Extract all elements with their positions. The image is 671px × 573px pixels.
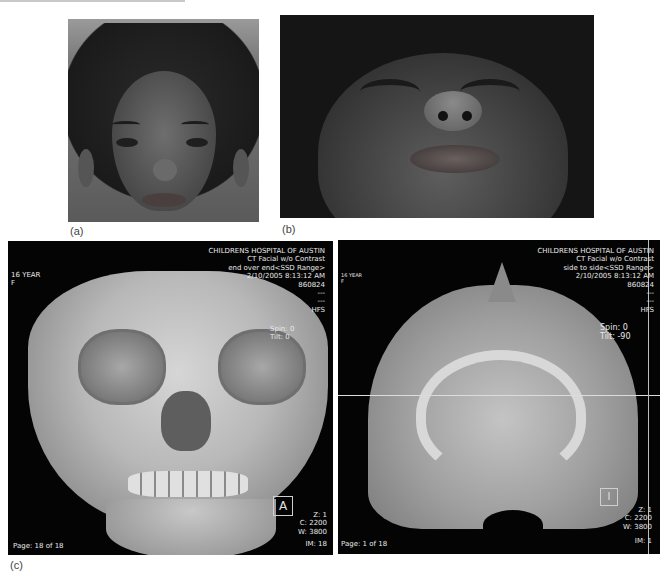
- patient-info: 16 YEAR F: [11, 271, 40, 288]
- lips: [410, 145, 500, 173]
- spin-tilt: Spin: 0 Tilt: -90: [600, 323, 631, 341]
- zoom-level: Z: 1: [298, 511, 327, 519]
- tilt-label: Tilt:: [600, 332, 615, 341]
- lips: [142, 193, 186, 207]
- mandible: [106, 499, 276, 555]
- foramen-notch: [483, 510, 543, 540]
- image-number: IM: 18: [305, 540, 327, 548]
- nose: [153, 159, 177, 181]
- spin-label: Spin:: [600, 323, 620, 332]
- caption-a: (a): [70, 225, 83, 237]
- blank-line-1: ---: [537, 289, 654, 297]
- window-settings: Z: 1 C: 2200 W: 3800: [298, 511, 327, 536]
- caption-b: (b): [282, 223, 295, 235]
- blank-line-2: ---: [537, 297, 654, 305]
- institution: CHILDRENS HOSPITAL OF AUSTIN: [208, 247, 325, 255]
- photo-frontal-face: [68, 19, 259, 222]
- patient-position: HFS: [537, 306, 654, 314]
- orientation-marker: I: [600, 488, 618, 506]
- ct-header: CHILDRENS HOSPITAL OF AUSTIN CT Facial w…: [208, 247, 325, 314]
- photo-worms-eye-face: [280, 15, 594, 218]
- left-nostril: [438, 111, 448, 121]
- blank-line-2: ---: [208, 297, 325, 305]
- window-width: W: 3800: [623, 523, 652, 531]
- page-indicator: Page: 1 of 18: [341, 540, 387, 548]
- right-ear: [233, 149, 249, 187]
- patient-info: 16 YEAR F: [341, 272, 362, 284]
- patient-sex: F: [11, 279, 40, 287]
- blank-line-1: ---: [208, 289, 325, 297]
- datetime: 2/10/2005 8:13:12 AM: [208, 272, 325, 280]
- window-center: C: 2200: [298, 519, 327, 527]
- ct-frontal-view: CHILDRENS HOSPITAL OF AUSTIN CT Facial w…: [8, 241, 333, 555]
- datetime: 2/10/2005 8:13:12 AM: [537, 272, 654, 280]
- right-nostril: [462, 111, 472, 121]
- patient-sex: F: [341, 278, 362, 284]
- top-edge-bar: [0, 0, 185, 2]
- series: end over end<SSD Range>: [208, 264, 325, 272]
- left-eyelashes: [360, 79, 420, 105]
- spin-label: Spin:: [270, 325, 288, 333]
- tilt-value: -90: [617, 332, 630, 341]
- left-eyebrow: [112, 121, 140, 128]
- zoom-level: Z: 1: [623, 506, 652, 514]
- crosshair-horizontal: [338, 395, 660, 396]
- teeth: [128, 471, 248, 497]
- spin-value: 0: [290, 325, 294, 333]
- face-shape: [318, 53, 568, 218]
- image-number: IM: 1: [635, 537, 652, 545]
- left-eye: [116, 138, 138, 147]
- caption-c: (c): [10, 559, 23, 571]
- orientation-marker: A: [273, 496, 293, 516]
- series: side to side<SSD Range>: [537, 264, 654, 272]
- institution: CHILDRENS HOSPITAL OF AUSTIN: [537, 247, 654, 255]
- spin-tilt: Spin: 0 Tilt: 0: [270, 325, 294, 342]
- study: CT Facial w/o Contrast: [537, 255, 654, 263]
- spin-value: 0: [623, 323, 628, 332]
- patient-age: 16 YEAR: [341, 272, 362, 278]
- ct-inferior-view: CHILDRENS HOSPITAL OF AUSTIN CT Facial w…: [338, 240, 660, 554]
- right-eye: [186, 138, 208, 147]
- window-center: C: 2200: [623, 514, 652, 522]
- nasal-cavity: [161, 391, 211, 451]
- right-eyebrow: [181, 121, 209, 128]
- left-ear: [78, 149, 94, 187]
- tilt-value: 0: [285, 333, 289, 341]
- tilt-label: Tilt:: [270, 333, 283, 341]
- patient-id: 860824: [537, 281, 654, 289]
- patient-position: HFS: [208, 306, 325, 314]
- study: CT Facial w/o Contrast: [208, 255, 325, 263]
- window-settings: Z: 1 C: 2200 W: 3800: [623, 506, 652, 531]
- dental-arch: [416, 350, 586, 480]
- page-indicator: Page: 18 of 18: [13, 542, 64, 550]
- patient-age: 16 YEAR: [11, 271, 40, 279]
- left-orbit: [78, 329, 166, 405]
- window-width: W: 3800: [298, 528, 327, 536]
- nasal-spine: [488, 262, 516, 302]
- ct-header: CHILDRENS HOSPITAL OF AUSTIN CT Facial w…: [537, 247, 654, 314]
- nose: [424, 91, 482, 131]
- patient-id: 860824: [208, 281, 325, 289]
